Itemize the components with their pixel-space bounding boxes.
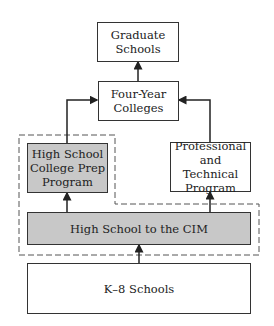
node-four-year-colleges: Four-YearColleges	[98, 81, 179, 121]
node-k8-schools: K–8 Schools	[27, 263, 251, 314]
node-graduate-schools: GraduateSchools	[97, 22, 179, 62]
node-label: K–8 Schools	[104, 282, 174, 296]
node-label: Four-Year	[111, 87, 167, 101]
node-label: Program	[171, 181, 250, 195]
node-label: and Technical	[171, 153, 250, 181]
node-hs-college-prep: High SchoolCollege PrepProgram	[27, 143, 108, 193]
node-label: Schools	[111, 42, 166, 56]
node-label: Graduate	[111, 28, 166, 42]
node-label: High School	[30, 147, 105, 161]
node-label: Program	[30, 175, 105, 189]
node-hs-to-cim: High School to the CIM	[27, 212, 251, 245]
arrow-proftech-to-fouryear	[179, 100, 210, 142]
node-label: College Prep	[30, 161, 105, 175]
arrow-prep-to-fouryear	[67, 100, 97, 143]
node-professional-technical: Professionaland TechnicalProgram	[170, 142, 251, 192]
node-label: Professional	[171, 139, 250, 153]
node-label: High School to the CIM	[70, 222, 208, 236]
node-label: Colleges	[111, 101, 167, 115]
